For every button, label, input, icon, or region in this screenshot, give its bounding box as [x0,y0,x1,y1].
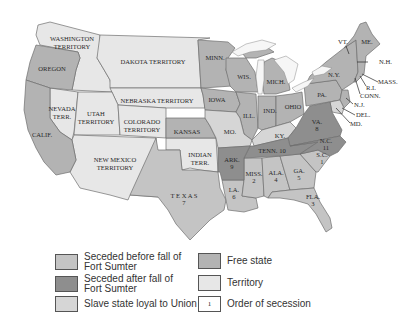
label-vermont: VT. [338,38,348,45]
label-delaware: DEL. [356,111,371,118]
label-new-mexico-territory-2: TERRITORY [97,164,134,171]
florida [268,188,332,232]
legend-seceded-after: Seceded after fall of Fort Sumter [55,274,173,294]
label-michigan: MICH. [267,78,286,85]
label-pennsylvania: PA. [317,91,327,98]
label-utah-territory: UTAH [87,110,105,117]
label-arkansas: ARK. [224,156,240,163]
label-florida: FLA. [306,193,320,200]
label-georgia: GA. [293,167,305,174]
lake-michigan [256,60,264,94]
label-texas: T E X A S [171,192,198,199]
label-maryland: MD. [350,120,363,127]
swatch-territory [198,275,221,291]
label-ohio: OHIO [285,103,302,110]
label-utah-territory-2: TERRITORY [78,118,115,125]
order-south-carolina: 1 [320,158,323,165]
label-new-hampshire: N.H. [379,58,392,65]
legend-free-state: Free state [198,253,272,269]
label-iowa: IOWA [208,96,225,103]
label-alabama: ALA. [268,169,284,176]
label-nevada-territory-2: TERR. [53,113,72,120]
label-dakota-territory: DAKOTA TERRITORY [121,58,186,65]
label-minnesota: MINN. [205,54,225,61]
label-new-jersey: N.J. [354,101,365,108]
swatch-seceded-after [55,276,78,292]
legend-order-of-secession: 1 Order of secession [198,296,311,312]
secession-map: WASHINGTON TERRITORY DAKOTA TERRITORY NE… [0,0,413,240]
label-nevada-territory: NEVADA [49,105,76,112]
label-massachusetts: MASS. [378,78,398,85]
label-mississippi: MISS. [245,170,262,177]
label-illinois: ILL. [243,112,255,119]
legend-slave-loyal-label: Slave state loyal to Union [84,299,197,309]
label-virginia: VA. [312,118,323,125]
legend-territory-label: Territory [227,278,263,288]
legend-slave-loyal: Slave state loyal to Union [55,296,197,312]
label-missouri: MO. [224,128,237,135]
label-new-york: N.Y. [328,71,340,78]
label-wisconsin: WIS. [237,73,251,80]
label-connecticut: CONN. [360,92,381,99]
legend-seceded-before-label-2: Fort Sumter [84,262,181,272]
label-indian-territory: INDIAN [188,151,212,158]
swatch-slave-loyal [55,296,78,312]
label-colorado-territory-2: TERRITORY [124,126,161,133]
label-louisiana: LA. [229,186,240,193]
legend-seceded-before: Seceded before fall of Fort Sumter [55,252,181,272]
legend-order-label: Order of secession [227,299,311,309]
label-kansas: KANSAS [174,128,201,135]
label-oregon: OREGON [38,65,66,72]
label-new-mexico-territory: NEW MEXICO [94,156,137,163]
swatch-free-state [198,253,221,269]
order-mississippi: 2 [252,177,255,184]
label-colorado-territory: COLORADO [124,118,161,125]
label-south-carolina: S.C. [316,151,328,158]
legend-territory: Territory [198,275,263,291]
order-north-carolina: 11 [323,144,329,151]
label-indiana: IND. [263,107,277,114]
legend-free-state-label: Free state [227,256,272,266]
label-rhode-island: R.I. [366,84,376,91]
label-north-carolina: N.C. [320,137,333,144]
swatch-seceded-before [55,254,78,270]
label-washington-territory: WASHINGTON [50,35,94,42]
label-california: CALIF. [32,131,53,138]
label-washington-territory-2: TERRITORY [54,43,91,50]
label-kentucky: KY. [275,132,286,139]
label-nebraska-territory: NEBRASKA TERRITORY [120,97,193,104]
legend-seceded-after-label-2: Fort Sumter [84,284,173,294]
swatch-order-box: 1 [198,296,221,312]
label-maine: ME. [361,38,373,45]
label-tennessee: TENN. 10 [258,147,286,154]
map-legend: Seceded before fall of Fort Sumter Seced… [55,252,375,322]
label-indian-territory-2: TERR. [191,159,210,166]
